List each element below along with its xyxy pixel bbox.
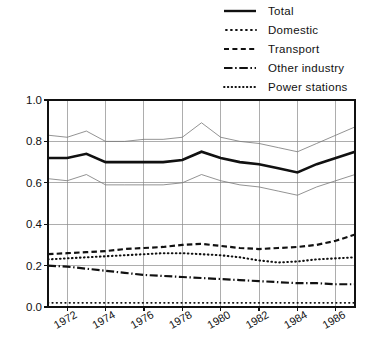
x-tick-label-1974: 1974 bbox=[90, 308, 117, 331]
x-tick-label-1980: 1980 bbox=[205, 308, 232, 331]
x-tick-label-1984: 1984 bbox=[282, 308, 309, 331]
series-line-total-lower-bound bbox=[48, 175, 355, 196]
data-series-layer bbox=[48, 123, 355, 303]
chart-figure: Total Domestic Transport Other industry … bbox=[0, 0, 382, 352]
chart-legend: Total Domestic Transport Other industry … bbox=[224, 5, 348, 93]
chart-svg: Total Domestic Transport Other industry … bbox=[0, 0, 382, 352]
y-tick-label-0.4: 0.4 bbox=[26, 218, 43, 230]
y-tick-label-1: 1.0 bbox=[26, 94, 42, 106]
x-tick-label-1982: 1982 bbox=[243, 308, 270, 331]
legend-entry-power-stations: Power stations bbox=[224, 81, 348, 93]
y-axis: 1.00.80.60.40.20.0 bbox=[26, 94, 48, 313]
legend-entry-transport: Transport bbox=[224, 43, 320, 55]
x-tick-label-1986: 1986 bbox=[320, 308, 347, 331]
vertical-gridlines bbox=[67, 100, 336, 307]
y-tick-label-0.2: 0.2 bbox=[26, 260, 42, 272]
x-tick-label-1972: 1972 bbox=[52, 308, 79, 331]
x-tick-label-1976: 1976 bbox=[128, 308, 155, 331]
legend-label-domestic: Domestic bbox=[268, 24, 318, 36]
legend-label-other-industry: Other industry bbox=[268, 62, 344, 74]
legend-entry-domestic: Domestic bbox=[226, 24, 318, 36]
legend-entry-other-industry: Other industry bbox=[224, 62, 344, 74]
x-axis: 19721974197619781980198219841986 bbox=[52, 307, 348, 331]
series-line-total bbox=[48, 152, 355, 173]
plot-frame bbox=[48, 100, 355, 307]
legend-label-total: Total bbox=[268, 5, 294, 17]
series-line-total-upper-bound bbox=[48, 123, 355, 152]
plot-area bbox=[48, 100, 355, 307]
series-line-domestic bbox=[48, 253, 355, 262]
y-tick-label-0.6: 0.6 bbox=[26, 177, 42, 189]
legend-entry-total: Total bbox=[224, 5, 294, 17]
series-line-other-industry bbox=[48, 266, 355, 285]
legend-label-transport: Transport bbox=[268, 43, 320, 55]
y-tick-label-0: 0.0 bbox=[26, 301, 42, 313]
horizontal-gridlines bbox=[48, 141, 355, 265]
legend-label-power-stations: Power stations bbox=[268, 81, 348, 93]
x-tick-label-1978: 1978 bbox=[167, 308, 194, 331]
series-line-transport bbox=[48, 235, 355, 255]
y-tick-label-0.8: 0.8 bbox=[26, 135, 42, 147]
